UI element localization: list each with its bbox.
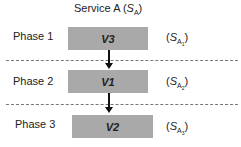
phase-2-version: V1 (101, 76, 114, 88)
phase-3-version: V2 (106, 121, 119, 133)
phase-2-label: Phase 2 (13, 75, 53, 87)
phase-divider-1 (6, 60, 238, 61)
arrow-down-icon (105, 63, 113, 69)
phase-2-version-box: V1 (68, 70, 148, 93)
phase-3-version-box: V2 (72, 115, 153, 138)
phase-1-version: V3 (101, 33, 114, 45)
phase-1-label: Phase 1 (13, 30, 53, 42)
phase-2-state: (SA2) (166, 75, 188, 91)
diagram-title: Service A (SA) (74, 2, 142, 16)
phase-1-version-box: V3 (68, 27, 148, 50)
diagram-root: Service A (SA) Phase 1 V3 (SA1) Phase 2 … (0, 0, 241, 147)
phase-3-state: (SA3) (166, 120, 188, 136)
phase-divider-2 (6, 104, 238, 105)
arrow-down-icon (105, 107, 113, 113)
phase-1-state: (SA1) (166, 31, 188, 47)
arrow-2-shaft (108, 93, 110, 108)
phase-3-label: Phase 3 (15, 118, 55, 130)
arrow-1-shaft (108, 50, 110, 64)
